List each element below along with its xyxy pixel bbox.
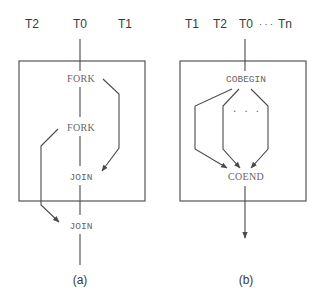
thread-label-t0: T0: [239, 17, 253, 31]
panel-b-cobegin-coend: T1 T2 T0 · · · Tn COBEGIN . . . COEND (b…: [180, 17, 306, 287]
thread-label-t0: T0: [73, 17, 87, 31]
join-statement-2: JOIN: [70, 221, 93, 232]
fork-statement-2: FORK: [67, 122, 95, 133]
thread-label-tn: Tn: [278, 17, 292, 31]
coend-statement: COEND: [228, 171, 264, 182]
fork-statement-1: FORK: [67, 73, 95, 84]
fork-join-cobegin-diagram: T2 T0 T1 FORK FORK JOIN JOIN (a) T1 T2 T…: [0, 0, 320, 304]
join-statement-1: JOIN: [70, 172, 93, 183]
thread-label-t2: T2: [25, 17, 39, 31]
t1-thread-arrow: [102, 79, 119, 171]
thread-label-t1: T1: [185, 17, 199, 31]
panel-b-caption: (b): [239, 273, 254, 287]
branch-path-t1: [195, 89, 232, 168]
cobegin-statement: COBEGIN: [226, 74, 266, 85]
branch-path-tn: [251, 89, 268, 168]
branch-path-t2: [223, 89, 240, 168]
panel-a-caption: (a): [73, 273, 88, 287]
panel-a-fork-join: T2 T0 T1 FORK FORK JOIN JOIN (a): [19, 17, 145, 287]
more-threads-ellipsis: . . .: [232, 104, 261, 115]
t2-thread-arrow: [41, 129, 59, 222]
thread-label-ellipsis: · · ·: [259, 19, 273, 29]
thread-label-t2: T2: [213, 17, 227, 31]
thread-label-t1: T1: [118, 17, 132, 31]
